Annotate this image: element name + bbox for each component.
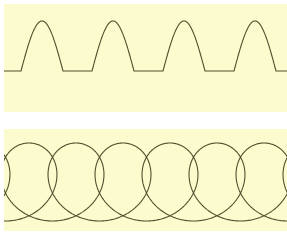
panel-rectified-sine: [4, 4, 287, 112]
rectified-sine-plot: [4, 4, 287, 112]
panel-background-rect: [4, 4, 287, 112]
figure-root: [0, 0, 287, 237]
panel-prolate-cycloid: [4, 129, 287, 231]
prolate-cycloid-plot: [4, 129, 287, 231]
